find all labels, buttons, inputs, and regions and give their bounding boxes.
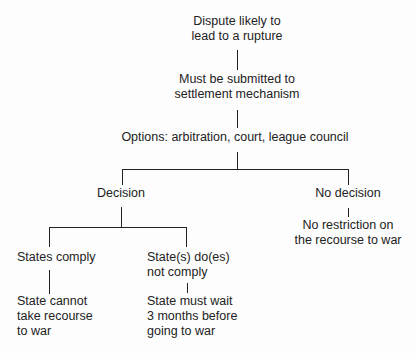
node-text-line: State must wait — [147, 294, 237, 309]
node-text-line: to war — [17, 324, 93, 339]
node-decision: Decision — [97, 186, 145, 201]
node-text-line: Dispute likely to — [191, 14, 282, 29]
node-text-line: No decision — [315, 186, 380, 201]
connector-not-comply-wait — [187, 283, 188, 293]
connector-root-submit — [237, 50, 238, 70]
connector-comply-cannot — [49, 270, 50, 294]
node-cannot-war: State cannot take recourse to war — [17, 294, 93, 339]
node-text-line: Must be submitted to — [174, 72, 299, 87]
node-options: Options: arbitration, court, league coun… — [121, 130, 348, 145]
node-text-line: States comply — [17, 250, 96, 265]
node-submit: Must be submitted to settlement mechanis… — [174, 72, 299, 102]
node-text-line: take recourse — [17, 309, 93, 324]
connector-no-decision-restriction — [348, 208, 349, 217]
connector-to-no-decision — [348, 169, 349, 185]
node-text-line: No restriction on — [295, 218, 402, 233]
connector-submit-options — [237, 110, 238, 128]
node-text-line: 3 months before — [147, 309, 237, 324]
connector-decision-branch — [49, 227, 187, 228]
node-text-line: the recourse to war — [295, 233, 402, 248]
node-not-comply: State(s) do(es) not comply — [147, 250, 230, 280]
node-text-line: going to war — [147, 324, 237, 339]
node-text-line: settlement mechanism — [174, 87, 299, 102]
node-text-line: lead to a rupture — [191, 29, 282, 44]
node-text-line: Options: arbitration, court, league coun… — [121, 130, 348, 145]
connector-decision-stem — [121, 207, 122, 227]
node-no-decision: No decision — [315, 186, 380, 201]
node-dispute: Dispute likely to lead to a rupture — [191, 14, 282, 44]
node-text-line: not comply — [147, 265, 230, 280]
node-must-wait: State must wait 3 months before going to… — [147, 294, 237, 339]
node-states-comply: States comply — [17, 250, 96, 265]
connector-to-not-comply — [186, 227, 187, 247]
node-no-restriction: No restriction on the recourse to war — [295, 218, 402, 248]
connector-options-stem — [237, 152, 238, 169]
node-text-line: State(s) do(es) — [147, 250, 230, 265]
connector-to-decision — [122, 169, 123, 185]
connector-options-branch — [122, 169, 349, 170]
node-text-line: State cannot — [17, 294, 93, 309]
connector-to-comply — [49, 227, 50, 247]
node-text-line: Decision — [97, 186, 145, 201]
